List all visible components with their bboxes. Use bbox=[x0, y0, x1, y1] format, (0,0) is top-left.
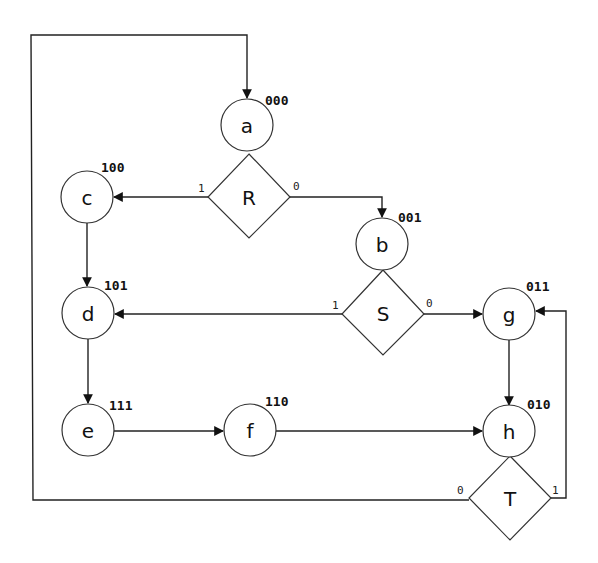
decision-S-false-label: 0 bbox=[426, 297, 433, 310]
state-f-code: 110 bbox=[265, 394, 289, 409]
state-c-label: c bbox=[82, 186, 93, 210]
state-g-code: 011 bbox=[526, 279, 550, 294]
decision-R-label: R bbox=[242, 186, 256, 210]
state-b-code: 001 bbox=[398, 210, 422, 225]
state-e-code: 111 bbox=[109, 398, 133, 413]
state-h-code: 010 bbox=[527, 397, 551, 412]
decision-S-true-label: 1 bbox=[332, 299, 339, 312]
state-a-label: a bbox=[241, 114, 253, 138]
state-h-label: h bbox=[503, 420, 516, 444]
state-d-code: 101 bbox=[104, 278, 128, 293]
decision-S: S 1 0 bbox=[332, 270, 433, 355]
state-a: a 000 bbox=[221, 93, 289, 151]
asm-chart: R 1 0 S 1 0 T 0 1 a 000 b 001 c 100 d 10… bbox=[0, 0, 598, 563]
state-c: c 100 bbox=[61, 160, 125, 223]
decision-T-label: T bbox=[503, 487, 517, 511]
decision-S-label: S bbox=[377, 302, 390, 326]
state-b: b 001 bbox=[356, 210, 422, 270]
state-g: g 011 bbox=[483, 279, 550, 340]
decision-R-false-label: 0 bbox=[293, 180, 300, 193]
decision-T-false-label: 0 bbox=[457, 484, 464, 497]
state-a-code: 000 bbox=[265, 93, 289, 108]
state-b-label: b bbox=[376, 233, 389, 257]
state-d-label: d bbox=[82, 302, 95, 326]
state-h: h 010 bbox=[483, 397, 551, 457]
state-c-code: 100 bbox=[101, 160, 125, 175]
decision-R: R 1 0 bbox=[198, 154, 300, 238]
decision-T-true-label: 1 bbox=[552, 484, 559, 497]
state-e: e 111 bbox=[62, 398, 133, 456]
state-f: f 110 bbox=[224, 394, 289, 456]
decision-R-true-label: 1 bbox=[198, 182, 205, 195]
edge-R-to-b bbox=[290, 197, 382, 217]
state-e-label: e bbox=[82, 419, 94, 443]
state-d: d 101 bbox=[62, 278, 128, 339]
state-f-label: f bbox=[246, 419, 254, 443]
decision-T: T 0 1 bbox=[457, 456, 559, 540]
state-g-label: g bbox=[503, 303, 516, 327]
